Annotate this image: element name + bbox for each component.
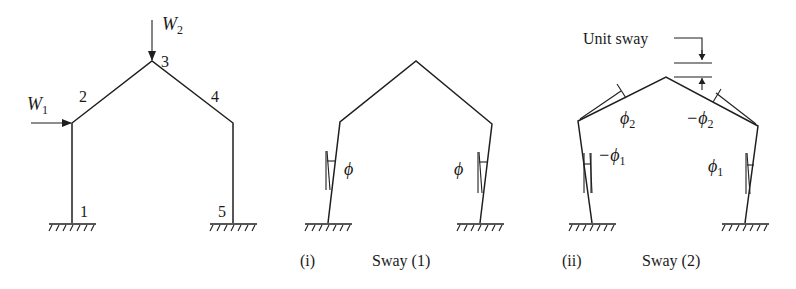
unit-sway-label: Unit sway: [583, 30, 648, 48]
node-label-1: 1: [80, 203, 88, 220]
rotation-label-phi2-left: ϕ2: [620, 108, 635, 131]
rotation-label-phi1-right: ϕ1: [708, 156, 723, 179]
node-label-4: 4: [211, 88, 219, 105]
rotation-label-minus-phi1-left: −ϕ1: [598, 145, 625, 168]
portal-frame-sway-diagram: W1 W2 2 3 4 1 5: [0, 0, 796, 289]
node-label-3: 3: [161, 53, 169, 70]
caption-sway-2: Sway (2): [642, 252, 700, 270]
rotation-label-minus-phi2-right: −ϕ2: [686, 108, 713, 131]
sway-1-frame: ϕ ϕ (i) Sway (1): [300, 61, 504, 270]
frame-members: [72, 61, 233, 223]
load-w1-label: W1: [27, 94, 48, 117]
rotation-label-phi-left: ϕ: [344, 159, 353, 179]
fixed-support-left: [305, 224, 352, 231]
sway-2-frame: Unit sway ϕ2 −ϕ2 −ϕ1 ϕ1 (ii) Sway (2): [562, 30, 769, 270]
caption-index-ii: (ii): [562, 252, 582, 270]
node-label-5: 5: [218, 203, 226, 220]
fixed-support-5: [210, 224, 257, 231]
rotation-indicator-right-rafter: [713, 89, 756, 124]
rotation-label-phi-right: ϕ: [454, 159, 463, 179]
caption-sway-1: Sway (1): [372, 252, 430, 270]
original-frame: W1 W2 2 3 4 1 5: [27, 14, 257, 231]
fixed-support-left: [569, 224, 616, 231]
load-w2-label: W2: [162, 14, 183, 37]
unit-sway-dimension: [674, 38, 712, 90]
sway-1-members: [328, 61, 492, 223]
fixed-support-right: [722, 224, 769, 231]
rotation-indicator-right-column: [746, 153, 754, 194]
caption-index-i: (i): [300, 252, 315, 270]
fixed-support-right: [457, 224, 504, 231]
fixed-support-1: [49, 224, 96, 231]
node-label-2: 2: [79, 88, 87, 105]
